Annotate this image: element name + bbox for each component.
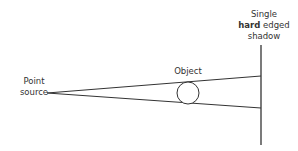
object-text: Object <box>174 66 202 76</box>
shadow-line3: shadow <box>236 31 292 42</box>
source-line2: source <box>14 87 54 98</box>
shadow-rest: edged <box>260 20 289 30</box>
object-label: Object <box>168 66 208 77</box>
shadow-line2: hard edged <box>236 20 292 31</box>
shadow-bold: hard <box>238 20 260 30</box>
shadow-line1: Single <box>236 9 292 20</box>
source-line1: Point <box>14 76 54 87</box>
point-source-label: Point source <box>14 76 54 98</box>
upper-ray <box>47 76 261 93</box>
lower-ray <box>47 93 261 108</box>
object-circle <box>177 82 199 104</box>
shadow-label: Single hard edged shadow <box>236 9 292 42</box>
